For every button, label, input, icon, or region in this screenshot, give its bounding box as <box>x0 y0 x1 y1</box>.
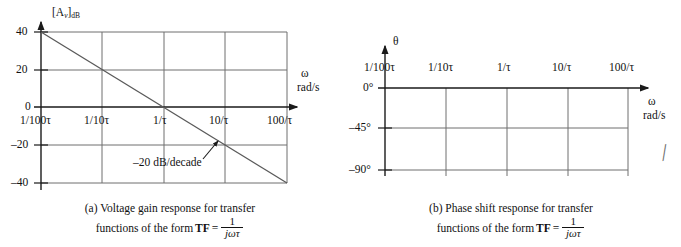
panel-a-caption: (a) Voltage gain response for transfer f… <box>0 200 340 240</box>
panel-b-caption-tf: TF <box>536 220 551 237</box>
panel-b-caption-denominator: jωτ <box>563 228 584 239</box>
panel-a-caption-line2: functions of the form TF = 1 jωτ <box>96 217 245 240</box>
panel-a-caption-denominator: jωτ <box>222 228 243 239</box>
panel-b-caption-line1: (b) Phase shift response for transfer <box>341 200 681 217</box>
panel-b-xtick-1-10tau: 1/10τ <box>428 62 453 74</box>
panel-a-ytick-20: 20 <box>16 64 28 76</box>
panel-b-xtick-1-tau: 1/τ <box>497 62 511 74</box>
panel-a-caption-prefix: functions of the form <box>96 220 193 237</box>
panel-b-xtick-100-tau: 100/τ <box>609 62 634 74</box>
panel-a-caption-fraction: 1 jωτ <box>221 216 243 239</box>
panel-a-x-axis-label-units: rad/s <box>297 82 319 94</box>
panel-a-y-axis-label: [Av]dB <box>52 7 80 20</box>
panel-b-caption-numerator: 1 <box>568 216 580 227</box>
panel-b-xtick-10-tau: 10/τ <box>552 62 571 74</box>
panel-b-xtick-1-100tau: 1/100τ <box>364 62 395 74</box>
panel-a-caption-line1: (a) Voltage gain response for transfer <box>0 200 340 217</box>
panel-b-gridlines <box>385 88 628 176</box>
panel-b-caption-prefix: functions of the form <box>437 220 534 237</box>
panel-a-xtick-1-100tau: 1/100τ <box>20 115 51 127</box>
panel-b-x-axis-label-symbol: ω <box>648 96 656 108</box>
panel-b-caption-equals: = <box>553 220 560 237</box>
panel-a-xtick-100-tau: 100/τ <box>267 115 292 127</box>
panel-b-ytick-neg90: –90° <box>349 164 371 176</box>
panel-b-caption: (b) Phase shift response for transfer fu… <box>341 200 681 240</box>
panel-a-caption-tf: TF <box>195 220 210 237</box>
panel-b-ytick-neg45: –45° <box>349 122 371 134</box>
panel-a-ytick-40: 40 <box>16 26 28 38</box>
panel-a-xtick-1-tau: 1/τ <box>153 115 167 127</box>
panel-b-x-axis-label-units: rad/s <box>643 110 665 122</box>
panel-a-x-axis-label-symbol: ω <box>301 68 309 80</box>
panel-b-y-axis-label: θ <box>393 36 399 48</box>
panel-a-ytick-0: 0 <box>25 101 31 113</box>
panel-a-xtick-10-tau: 10/τ <box>209 115 228 127</box>
panel-a-caption-numerator: 1 <box>227 216 239 227</box>
panel-a-xtick-1-10tau: 1/10τ <box>84 115 109 127</box>
panel-b-ytick-0: 0° <box>363 82 373 94</box>
bode-plot-figure: [Av]dB 40 20 0 –20 –40 1/100τ 1/10τ 1/τ … <box>0 0 681 247</box>
panel-b-caption-fraction: 1 jωτ <box>562 216 584 239</box>
panel-b-axes <box>378 46 648 176</box>
panel-a-ytick-neg40: –40 <box>11 177 28 189</box>
panel-a-annotation-arrow <box>203 141 218 159</box>
panel-a-ytick-neg20: –20 <box>11 139 28 151</box>
panel-a-slope-annotation: –20 dB/decade <box>133 157 202 169</box>
panel-b-caption-line2: functions of the form TF = 1 jωτ <box>437 217 586 240</box>
panel-a-caption-equals: = <box>212 220 219 237</box>
